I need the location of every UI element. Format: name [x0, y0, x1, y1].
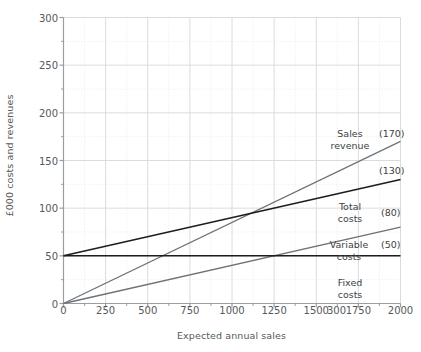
variable-costs-label-line1: Variable	[320, 239, 378, 251]
x-axis-tick-labels: 025050075010001250150030017502000	[0, 305, 421, 325]
variable-costs-label: Variable costs	[320, 239, 378, 263]
total-costs-label-line2: costs	[324, 213, 376, 225]
x-tick-label: 300	[327, 305, 346, 316]
fixed-costs-label-line1: Fixed	[324, 277, 376, 289]
total-costs-end-value-label: (80)	[381, 207, 401, 219]
total-costs-label-line1: Total	[324, 201, 376, 213]
fixed-costs-label-line2: costs	[324, 289, 376, 301]
x-tick-label: 2000	[388, 305, 413, 316]
sales-revenue-label: Sales revenue	[324, 128, 376, 152]
fixed-costs-label: Fixed costs	[324, 277, 376, 301]
sales-revenue-label-line1: Sales	[324, 128, 376, 140]
x-tick-label: 1750	[346, 305, 371, 316]
x-tick-label: 500	[138, 305, 157, 316]
total-costs-label: Total costs	[324, 201, 376, 225]
total-costs-value-label: (130)	[379, 165, 405, 177]
x-tick-label: 1000	[219, 305, 244, 316]
x-tick-label: 0	[60, 305, 66, 316]
x-tick-label: 750	[180, 305, 199, 316]
x-axis-title: Expected annual sales	[63, 330, 400, 341]
tick-marks	[60, 18, 401, 308]
x-tick-label: 1500	[304, 305, 329, 316]
sales-revenue-label-line2: revenue	[324, 140, 376, 152]
variable-costs-label-line2: costs	[320, 251, 378, 263]
x-tick-label: 1250	[261, 305, 286, 316]
sales-revenue-value-label: (170)	[379, 128, 405, 140]
chart-container: £000 costs and revenues 0501001502002503…	[0, 0, 421, 352]
variable-costs-value-label: (50)	[381, 239, 401, 251]
x-tick-label: 250	[96, 305, 115, 316]
